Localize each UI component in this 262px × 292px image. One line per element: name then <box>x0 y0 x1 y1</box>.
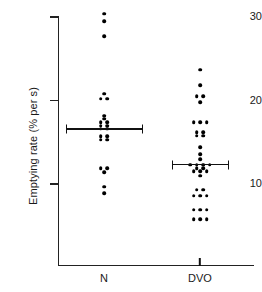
error-bar-cap-dvo-right <box>228 160 229 169</box>
data-point <box>198 120 202 124</box>
data-point <box>198 84 202 88</box>
data-point <box>198 194 202 198</box>
data-point <box>198 217 202 221</box>
data-point <box>198 157 202 161</box>
data-point <box>198 145 202 149</box>
data-point <box>198 68 202 72</box>
data-point <box>102 19 106 23</box>
data-point <box>198 208 202 212</box>
y-tick-10 <box>50 183 58 184</box>
data-point <box>195 134 199 138</box>
data-point <box>102 185 106 189</box>
data-point <box>99 138 103 142</box>
y-axis-label: Emptying rate (% per s) <box>22 0 44 292</box>
data-point <box>205 217 209 221</box>
data-point <box>201 134 205 138</box>
data-point <box>102 12 106 16</box>
dot-plot-figure: Emptying rate (% per s) 102030 NDVO <box>0 0 262 292</box>
data-point <box>105 138 109 142</box>
data-point <box>201 95 205 99</box>
y-axis-line <box>58 16 59 266</box>
x-tick-dvo <box>199 258 201 266</box>
y-tick-label-20: 20 <box>218 95 262 106</box>
y-tick-label-10: 10 <box>218 178 262 189</box>
data-point <box>102 92 106 96</box>
error-bar-cap-n-left <box>66 124 67 133</box>
data-point <box>105 97 109 101</box>
data-point <box>205 120 209 124</box>
data-point <box>192 120 196 124</box>
error-bar-cap-n-right <box>142 124 143 133</box>
data-point <box>201 188 205 192</box>
x-tick-label-dvo: DVO <box>188 272 212 284</box>
x-tick-label-n: N <box>100 272 108 284</box>
data-point <box>205 208 209 212</box>
y-tick-30 <box>50 16 58 17</box>
data-point <box>105 166 109 170</box>
data-point <box>198 170 202 174</box>
data-point <box>192 217 196 221</box>
x-axis-line <box>58 265 254 266</box>
error-bar-cap-dvo-left <box>172 160 173 169</box>
data-point <box>205 194 209 198</box>
y-tick-20 <box>50 100 58 101</box>
data-point <box>102 191 106 195</box>
data-point <box>192 170 196 174</box>
data-point <box>102 34 106 38</box>
data-point <box>198 100 202 104</box>
data-point <box>205 170 209 174</box>
data-point <box>192 208 196 212</box>
data-point <box>198 174 202 178</box>
data-point <box>99 97 103 101</box>
data-point <box>102 171 106 175</box>
y-tick-label-30: 30 <box>218 11 262 22</box>
data-point <box>192 194 196 198</box>
data-point <box>195 188 199 192</box>
data-point <box>198 152 202 156</box>
data-point <box>195 95 199 99</box>
data-point <box>99 166 103 170</box>
mean-line-n <box>66 128 142 129</box>
mean-line-dvo <box>172 164 228 165</box>
